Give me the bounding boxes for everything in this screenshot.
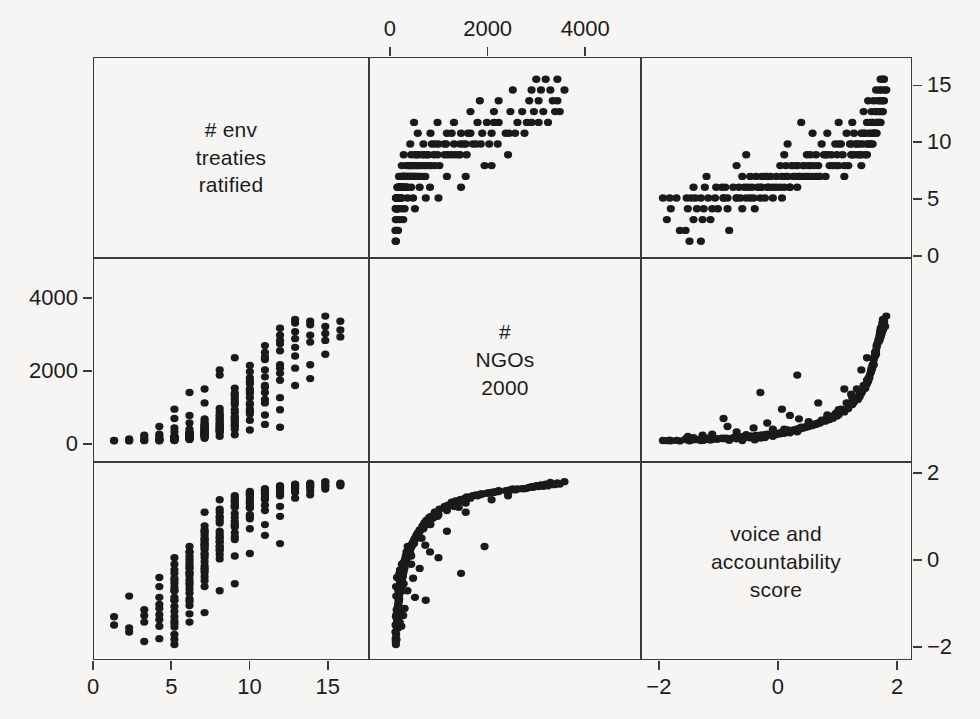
axis-label-top-0: 0 [384,16,396,42]
diag-line: voice and [730,520,822,548]
tick-left-row2-2 [83,297,92,299]
diag-line: # [499,318,511,346]
axis-label-right-row3-2: 2 [927,460,939,486]
axis-label-bottom-col1-0: 0 [87,674,99,700]
diag-line: NGOs [475,346,534,374]
tick-right-row3-1 [913,559,922,561]
tick-right-row1-1 [913,198,922,200]
tick-bottom-col1-1 [170,661,172,670]
diag-line: accountability [711,548,841,576]
panel-ngos-vs-voice [642,259,910,461]
tick-bottom-col1-0 [92,661,94,670]
diag-line: score [750,576,802,604]
tick-bottom-col3-2 [896,661,898,670]
axis-label-bottom-col3-0: −2 [646,674,671,700]
panel-voice-vs-ngos [370,463,640,661]
panel-voice-vs-treaties [94,463,368,661]
tick-right-row1-3 [913,85,922,87]
axis-label-right-row1-2: 10 [927,129,951,155]
axis-label-top-2: 4000 [561,16,610,42]
tick-bottom-col3-1 [777,661,779,670]
tick-right-row1-2 [913,141,922,143]
axis-label-right-row3-0: −2 [927,634,952,660]
tick-left-row2-0 [83,443,92,445]
tick-left-row2-1 [83,370,92,372]
panel-treaties-vs-ngos [370,58,640,257]
axis-label-left-row2-2: 4000 [29,285,78,311]
diag-line: # env [205,116,257,144]
panel-ngos-vs-treaties [94,259,368,461]
tick-top-1 [487,47,489,56]
scatterplot-matrix-figure: # env treaties ratified # NGOs 2000 [0,0,980,719]
tick-bottom-col3-0 [658,661,660,670]
axis-label-right-row1-3: 15 [927,72,951,98]
axis-label-bottom-col1-2: 10 [237,674,261,700]
tick-bottom-col1-3 [327,661,329,670]
axis-label-right-row1-0: 0 [927,243,939,269]
tick-right-row3-0 [913,646,922,648]
panel-treaties-vs-voice [642,58,910,257]
diag-line: treaties [196,144,266,172]
diagonal-label-voice: voice and accountability score [642,463,910,661]
axis-label-left-row2-0: 0 [66,431,78,457]
axis-label-bottom-col3-1: 0 [772,674,784,700]
tick-right-row1-0 [913,255,922,257]
axis-label-bottom-col1-3: 15 [316,674,340,700]
diag-line: 2000 [481,374,529,402]
axis-label-top-1: 2000 [463,16,512,42]
diag-line: ratified [199,171,264,199]
tick-bottom-col1-2 [249,661,251,670]
axis-label-bottom-col3-2: 2 [891,674,903,700]
tick-right-row3-2 [913,472,922,474]
axis-label-right-row3-1: 0 [927,547,939,573]
axis-label-left-row2-1: 2000 [29,358,78,384]
axis-label-right-row1-1: 5 [927,186,939,212]
axis-label-bottom-col1-1: 5 [165,674,177,700]
diagonal-label-ngos: # NGOs 2000 [370,259,640,461]
matrix-frame: # env treaties ratified # NGOs 2000 [93,57,912,660]
tick-top-2 [584,47,586,56]
diagonal-label-treaties: # env treaties ratified [94,58,368,257]
tick-top-0 [389,47,391,56]
